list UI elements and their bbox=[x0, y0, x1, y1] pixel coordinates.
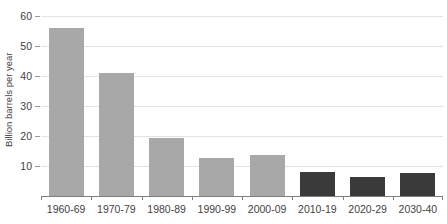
y-axis-tick-mark bbox=[35, 136, 40, 137]
x-axis-tick-label: 1960-69 bbox=[41, 202, 91, 216]
x-axis-tick-label: 2000-09 bbox=[242, 202, 292, 216]
x-axis-tick-mark bbox=[41, 196, 42, 200]
bar bbox=[350, 177, 385, 196]
x-axis-tick-mark bbox=[192, 196, 193, 200]
y-axis-tick-label: 10 bbox=[20, 161, 32, 172]
y-axis-title-label: Billion barrels per year bbox=[3, 53, 13, 148]
y-axis-tick-label: 60 bbox=[20, 11, 32, 22]
bar bbox=[99, 73, 134, 196]
bar bbox=[250, 155, 285, 196]
y-axis-tick-label: 20 bbox=[20, 131, 32, 142]
y-axis-tick-mark bbox=[35, 76, 40, 77]
y-axis-tick-mark bbox=[35, 46, 40, 47]
x-axis-tick-mark bbox=[242, 196, 243, 200]
plot-area: 102030405060 bbox=[41, 16, 443, 196]
y-axis-title: Billion barrels per year bbox=[0, 0, 16, 200]
x-axis-ticks bbox=[41, 196, 443, 200]
x-axis-tick-mark bbox=[91, 196, 92, 200]
bars bbox=[41, 16, 443, 196]
bar bbox=[400, 173, 435, 196]
y-axis-tick-label: 30 bbox=[20, 101, 32, 112]
x-axis-tick-mark bbox=[442, 196, 443, 200]
bar bbox=[149, 138, 184, 197]
x-axis-tick-label: 2010-19 bbox=[292, 202, 342, 216]
x-axis-tick-label: 2030-40 bbox=[393, 202, 443, 216]
x-axis-tick-label: 1990-99 bbox=[192, 202, 242, 216]
bar bbox=[199, 158, 234, 196]
bar bbox=[49, 28, 84, 196]
bar bbox=[300, 172, 335, 196]
bar-chart: Billion barrels per year 102030405060 19… bbox=[0, 0, 447, 224]
x-axis-tick-label: 1980-89 bbox=[142, 202, 192, 216]
y-axis-tick-mark bbox=[35, 106, 40, 107]
x-axis-tick-mark bbox=[142, 196, 143, 200]
y-axis-tick-mark bbox=[35, 16, 40, 17]
y-axis-tick-mark bbox=[35, 166, 40, 167]
x-axis-tick-mark bbox=[393, 196, 394, 200]
y-axis-tick-label: 40 bbox=[20, 71, 32, 82]
x-axis-tick-mark bbox=[292, 196, 293, 200]
x-axis-tick-label: 2020-29 bbox=[343, 202, 393, 216]
x-axis-tick-mark bbox=[343, 196, 344, 200]
x-axis-tick-label: 1970-79 bbox=[91, 202, 141, 216]
x-axis-labels: 1960-691970-791980-891990-992000-092010-… bbox=[41, 202, 443, 220]
y-axis-tick-label: 50 bbox=[20, 41, 32, 52]
